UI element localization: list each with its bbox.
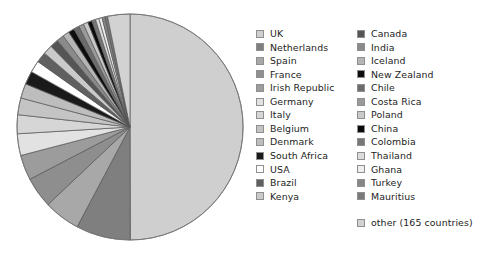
legend-item-new-zealand[interactable]: New Zealand [357,68,485,82]
legend-swatch-icon [357,30,365,38]
legend-swatch-icon [256,111,264,119]
legend-item-label: Iceland [371,56,406,65]
legend-swatch-icon [357,219,365,227]
legend-item-kenya[interactable]: Kenya [256,190,356,204]
legend-item-label: Brazil [270,178,297,187]
legend-swatch-icon [256,138,264,146]
legend-item-label: Turkey [371,178,402,187]
legend-item-label: Thailand [371,151,412,160]
legend-item-ghana[interactable]: Ghana [357,162,485,176]
chart-page: UKNetherlandsSpainFranceIrish RepublicGe… [0,0,485,254]
legend-item-italy[interactable]: Italy [256,108,356,122]
legend-item-thailand[interactable]: Thailand [357,149,485,163]
legend-swatch-icon [357,111,365,119]
legend-swatch-icon [256,57,264,65]
legend-swatch-icon [357,152,365,160]
legend-item-label: Italy [270,110,291,119]
legend-item-label: Canada [371,29,407,38]
legend-item-canada[interactable]: Canada [357,27,485,41]
legend-item-label: other (165 countries) [371,218,473,227]
legend-item-south-africa[interactable]: South Africa [256,149,356,163]
legend-swatch-icon [357,179,365,187]
legend-item-label: Belgium [270,124,309,133]
legend-item-mauritius[interactable]: Mauritius [357,190,485,204]
legend-item-usa[interactable]: USA [256,162,356,176]
legend-item-label: China [371,124,398,133]
legend-item-denmark[interactable]: Denmark [256,135,356,149]
legend-item-label: Costa Rica [371,97,422,106]
legend-swatch-icon [256,43,264,51]
legend-swatch-icon [357,70,365,78]
legend-item-label: UK [270,29,283,38]
legend-swatch-icon [256,70,264,78]
legend-item-germany[interactable]: Germany [256,95,356,109]
legend-swatch-icon [256,98,264,106]
legend-item-label: South Africa [270,151,328,160]
legend-swatch-icon [256,192,264,200]
legend-swatch-icon [357,165,365,173]
legend-item-irish-republic[interactable]: Irish Republic [256,81,356,95]
pie-slice [130,14,243,240]
legend-item-colombia[interactable]: Colombia [357,135,485,149]
legend-column-secondary: CanadaIndiaIcelandNew ZealandChileCosta … [357,27,485,230]
legend-column-primary: UKNetherlandsSpainFranceIrish RepublicGe… [256,27,356,203]
legend-swatch-icon [256,30,264,38]
legend-item-china[interactable]: China [357,122,485,136]
legend-swatch-icon [357,98,365,106]
legend-item-label: Mauritius [371,192,415,201]
legend-swatch-icon [256,165,264,173]
legend-item-belgium[interactable]: Belgium [256,122,356,136]
legend-item-label: Denmark [270,137,314,146]
legend-item-label: Irish Republic [270,83,334,92]
pie-slice-group [17,14,243,240]
pie-chart [0,0,258,254]
legend-item-label: USA [270,165,290,174]
legend-item-label: Ghana [371,165,402,174]
legend-swatch-icon [256,179,264,187]
legend-item-label: Colombia [371,137,416,146]
legend-swatch-icon [357,125,365,133]
legend-item-label: Poland [371,110,403,119]
legend-item-netherlands[interactable]: Netherlands [256,41,356,55]
legend-item-poland[interactable]: Poland [357,108,485,122]
chart-legend: UKNetherlandsSpainFranceIrish RepublicGe… [256,27,485,239]
legend-item-chile[interactable]: Chile [357,81,485,95]
legend-item-label: Germany [270,97,314,106]
legend-swatch-icon [357,192,365,200]
legend-swatch-icon [256,84,264,92]
legend-item-label: France [270,70,302,79]
legend-swatch-icon [256,125,264,133]
legend-swatch-icon [256,152,264,160]
legend-item-turkey[interactable]: Turkey [357,176,485,190]
legend-item-label: India [371,43,394,52]
legend-swatch-icon [357,84,365,92]
legend-item-label: Netherlands [270,43,328,52]
legend-item-france[interactable]: France [256,68,356,82]
legend-item-label: Kenya [270,192,299,201]
legend-item-spain[interactable]: Spain [256,54,356,68]
legend-item-label: Chile [371,83,395,92]
legend-item-uk[interactable]: UK [256,27,356,41]
pie-chart-svg [0,0,258,254]
legend-swatch-icon [357,43,365,51]
legend-swatch-icon [357,138,365,146]
legend-item-other-165-countries[interactable]: other (165 countries) [357,216,485,230]
legend-item-brazil[interactable]: Brazil [256,176,356,190]
legend-item-costa-rica[interactable]: Costa Rica [357,95,485,109]
legend-item-label: Spain [270,56,297,65]
legend-swatch-icon [357,57,365,65]
legend-item-india[interactable]: India [357,41,485,55]
legend-item-label: New Zealand [371,70,434,79]
legend-item-iceland[interactable]: Iceland [357,54,485,68]
